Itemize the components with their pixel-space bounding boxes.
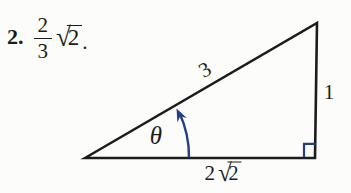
problem-number: 2. xyxy=(7,26,24,48)
fraction-denominator: 3 xyxy=(38,39,49,60)
triangle-outline xyxy=(85,23,317,158)
answer-radical: √ 2 xyxy=(56,24,82,51)
radicand: 2 xyxy=(67,25,83,49)
answer-period: . xyxy=(82,32,87,53)
problem-answer: 2. 2 3 √ 2 . xyxy=(7,15,88,59)
answer-fraction: 2 3 xyxy=(34,14,53,60)
textbook-figure-page: 2. 2 3 √ 2 . 3 1 θ 2 √ 2 xyxy=(0,0,351,193)
base-side-label: 2 √ 2 xyxy=(204,160,241,185)
fraction-numerator: 2 xyxy=(34,14,53,39)
angle-arc xyxy=(180,113,190,158)
base-coefficient: 2 xyxy=(204,163,215,184)
base-radical: √ 2 xyxy=(218,160,242,185)
opposite-side-label: 1 xyxy=(324,82,335,103)
base-radicand: 2 xyxy=(228,162,242,183)
theta-angle-label: θ xyxy=(150,123,162,148)
